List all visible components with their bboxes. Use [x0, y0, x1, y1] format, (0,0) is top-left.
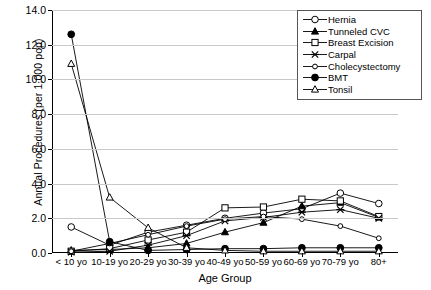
- y-tick-label: 8.0: [31, 108, 46, 120]
- y-tick-label: 2.0: [31, 212, 46, 224]
- data-point-filled-triangle: [312, 28, 319, 34]
- filled-triangle-icon: [302, 26, 328, 37]
- x-axis-tick-labels: < 10 yo10-19 yo20-29 yo30-39 yo40-49 yo5…: [52, 256, 398, 270]
- open-triangle-icon: [302, 84, 328, 95]
- data-point-open-square: [337, 198, 343, 204]
- data-point-filled-circle: [312, 74, 319, 81]
- data-point-open-square: [145, 237, 151, 243]
- data-point-open-triangle: [145, 224, 152, 230]
- cross-icon: [302, 49, 328, 60]
- legend-item-tunneled-cvc[interactable]: Tunneled CVC: [302, 26, 417, 38]
- legend-label: Tunneled CVC: [328, 26, 390, 37]
- y-tick-label: 14.0: [26, 4, 46, 16]
- data-point-open-square: [260, 204, 266, 210]
- x-tick-label: 60-69 yo: [283, 256, 320, 267]
- y-tick-label: 6.0: [31, 143, 46, 155]
- legend-label: Hernia: [328, 14, 356, 25]
- x-tick-label: 70-79 yo: [322, 256, 359, 267]
- x-tick-label: 10-19 yo: [91, 256, 128, 267]
- data-point-open-circle: [312, 16, 319, 23]
- chart-container: Annual Procedures (per 1,000 pop) 0.02.0…: [0, 0, 431, 290]
- legend-item-tonsil[interactable]: Tonsil: [302, 84, 417, 96]
- small-open-circle-icon: [302, 61, 328, 72]
- data-point-small-open-circle: [184, 224, 189, 229]
- data-point-open-square: [299, 196, 305, 202]
- data-point-open-triangle: [312, 86, 319, 92]
- open-square-icon: [302, 37, 328, 48]
- gridline: [52, 114, 398, 115]
- x-tick-label: < 10 yo: [56, 256, 87, 267]
- y-tick-mark: [48, 253, 52, 254]
- x-tick-label: 20-29 yo: [130, 256, 167, 267]
- x-tick-label: 80+: [371, 256, 387, 267]
- x-tick-label: 40-49 yo: [207, 256, 244, 267]
- y-axis-tick-labels: 0.02.04.06.08.010.012.014.0: [0, 0, 46, 260]
- y-tick-label: 4.0: [31, 178, 46, 190]
- x-tick-label: 50-59 yo: [245, 256, 282, 267]
- data-point-open-circle: [68, 224, 75, 231]
- legend-item-cholecystectomy[interactable]: Cholecystectomy: [302, 60, 417, 72]
- y-tick-label: 12.0: [26, 39, 46, 51]
- data-point-open-triangle: [68, 60, 75, 66]
- open-circle-icon: [302, 14, 328, 25]
- data-point-small-open-circle: [338, 224, 343, 229]
- y-tick-mark: [48, 10, 52, 11]
- gridline: [52, 218, 398, 219]
- gridline: [52, 149, 398, 150]
- gridline: [52, 184, 398, 185]
- data-point-small-open-circle: [313, 64, 318, 69]
- legend-label: Carpal: [328, 49, 356, 60]
- y-tick-mark: [48, 45, 52, 46]
- y-tick-mark: [48, 218, 52, 219]
- data-point-small-open-circle: [376, 236, 381, 241]
- legend-item-carpal[interactable]: Carpal: [302, 49, 417, 61]
- data-point-filled-circle: [106, 238, 113, 245]
- y-tick-label: 10.0: [26, 73, 46, 85]
- legend-item-bmt[interactable]: BMT: [302, 72, 417, 84]
- legend-item-breast-excision[interactable]: Breast Excision: [302, 37, 417, 49]
- data-point-open-square: [312, 40, 318, 46]
- x-tick-label: 30-39 yo: [168, 256, 205, 267]
- data-point-open-triangle: [106, 194, 113, 200]
- filled-circle-icon: [302, 72, 328, 83]
- y-tick-mark: [48, 149, 52, 150]
- chart-legend: HerniaTunneled CVCBreast ExcisionCarpalC…: [297, 10, 422, 100]
- legend-label: Cholecystectomy: [328, 61, 400, 72]
- data-point-filled-circle: [68, 31, 75, 38]
- x-axis-title: Age Group: [52, 272, 398, 284]
- y-tick-label: 0.0: [31, 247, 46, 259]
- data-point-small-open-circle: [146, 232, 151, 237]
- legend-label: Tonsil: [328, 84, 352, 95]
- y-tick-mark: [48, 79, 52, 80]
- data-point-open-circle: [337, 190, 344, 197]
- legend-label: BMT: [328, 72, 348, 83]
- y-tick-mark: [48, 184, 52, 185]
- data-point-open-square: [222, 205, 228, 211]
- y-tick-mark: [48, 114, 52, 115]
- data-point-open-circle: [375, 200, 382, 207]
- legend-label: Breast Excision: [328, 37, 393, 48]
- legend-item-hernia[interactable]: Hernia: [302, 14, 417, 26]
